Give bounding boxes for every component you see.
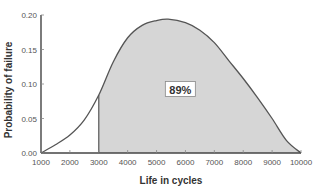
y-tick-label: 0.10: [21, 80, 37, 89]
y-tick-label: 0.00: [21, 149, 37, 158]
annotation-label: 89%: [169, 84, 191, 96]
x-tick-label: 2000: [61, 158, 79, 167]
y-axis-title: Probability of failure: [3, 41, 14, 138]
x-tick-label: 9000: [263, 158, 281, 167]
x-tick-label: 3000: [90, 158, 108, 167]
x-axis-title: Life in cycles: [140, 175, 203, 186]
x-tick-label: 10000: [290, 158, 313, 167]
probability-of-failure-chart: 1000200030004000500060007000800090001000…: [0, 0, 319, 191]
x-tick-label: 8000: [234, 158, 252, 167]
y-tick-label: 0.20: [21, 11, 37, 20]
x-tick-label: 1000: [32, 158, 50, 167]
percentage-annotation: 89%: [165, 82, 195, 97]
y-tick-label: 0.15: [21, 46, 37, 55]
y-tick-label: 0.05: [21, 115, 37, 124]
x-tick-label: 6000: [177, 158, 195, 167]
x-tick-label: 4000: [119, 158, 137, 167]
x-tick-label: 7000: [205, 158, 223, 167]
shaded-area: [99, 19, 301, 153]
x-tick-label: 5000: [148, 158, 166, 167]
